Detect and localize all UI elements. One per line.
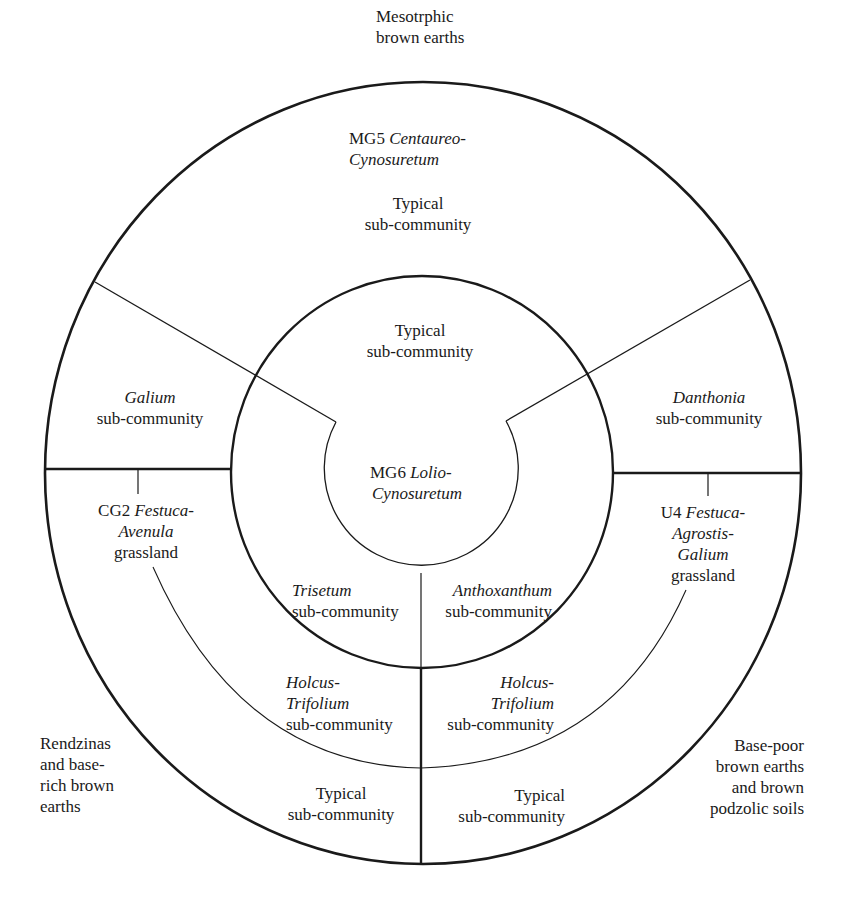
text-line: sub-community [445, 601, 552, 622]
genus-name: Trifolium [286, 693, 393, 714]
text-line: sub-community [365, 214, 472, 235]
community-name: Cynosuretum [349, 149, 466, 170]
genus-name: Danthonia [656, 387, 763, 408]
community-name: Avenula [98, 521, 194, 542]
trisetum-subcommunity: Trisetum sub-community [292, 580, 399, 622]
text-line: sub-community [292, 601, 399, 622]
community-name: Agrostis- [661, 523, 746, 544]
text-line: sub-community [367, 341, 474, 362]
genus-name: Holcus- [286, 672, 393, 693]
typical-subcommunity-bottom-left: Typical sub-community [288, 783, 395, 825]
community-code: CG2 [98, 501, 130, 520]
genus-name: Galium [97, 387, 204, 408]
text-line: grassland [661, 565, 746, 586]
typical-subcommunity-bottom-right: Typical sub-community [458, 785, 565, 827]
community-code: MG5 [349, 129, 385, 148]
mg5-typical-subcommunity: Typical sub-community [365, 193, 472, 235]
danthonia-subcommunity: Danthonia sub-community [656, 387, 763, 429]
genus-name: Trifolium [447, 693, 554, 714]
anthoxanthum-subcommunity: Anthoxanthum sub-community [445, 580, 552, 622]
community-u4: U4 Festuca- Agrostis- Galium grassland [661, 502, 746, 586]
text-line: Typical [365, 193, 472, 214]
text-line: sub-community [656, 408, 763, 429]
soil-label-left: Rendzinas and base- rich brown earths [40, 733, 114, 817]
genus-name: Trisetum [292, 580, 399, 601]
genus-name: Anthoxanthum [445, 580, 552, 601]
text-line: Mesotrphic [376, 6, 464, 27]
community-name: Festuca- [686, 503, 745, 522]
community-mg5: MG5 Centaureo- Cynosuretum [349, 128, 466, 170]
text-line: sub-community [288, 804, 395, 825]
text-line: brown earths [376, 27, 464, 48]
text-line: earths [40, 796, 114, 817]
community-name: Galium [661, 544, 746, 565]
text-line: sub-community [286, 714, 393, 735]
text-line: rich brown [40, 775, 114, 796]
genus-name: Holcus- [447, 672, 554, 693]
holcus-trifolium-subcommunity-right: Holcus- Trifolium sub-community [447, 672, 554, 735]
mg6-typical-subcommunity: Typical sub-community [367, 320, 474, 362]
text-line: sub-community [97, 408, 204, 429]
community-name: Festuca- [134, 501, 193, 520]
community-code: MG6 [370, 463, 406, 482]
community-mg6: MG6 Lolio- Cynosuretum [370, 462, 462, 504]
galium-subcommunity: Galium sub-community [97, 387, 204, 429]
community-name: Lolio- [410, 463, 452, 482]
text-line: sub-community [447, 714, 554, 735]
text-line: grassland [98, 542, 194, 563]
text-line: and brown [710, 777, 804, 798]
text-line: Typical [458, 785, 565, 806]
community-cg2: CG2 Festuca- Avenula grassland [98, 500, 194, 563]
community-name: Centaureo- [389, 129, 466, 148]
text-line: Rendzinas [40, 733, 114, 754]
text-line: and base- [40, 754, 114, 775]
text-line: Typical [288, 783, 395, 804]
text-line: Base-poor [710, 735, 804, 756]
text-line: brown earths [710, 756, 804, 777]
community-code: U4 [661, 503, 682, 522]
holcus-trifolium-subcommunity-left: Holcus- Trifolium sub-community [286, 672, 393, 735]
soil-label-top: Mesotrphic brown earths [376, 6, 464, 48]
text-line: Typical [367, 320, 474, 341]
community-name: Cynosuretum [370, 483, 462, 504]
text-line: podzolic soils [710, 798, 804, 819]
text-line: sub-community [458, 806, 565, 827]
soil-label-right: Base-poor brown earths and brown podzoli… [710, 735, 804, 819]
